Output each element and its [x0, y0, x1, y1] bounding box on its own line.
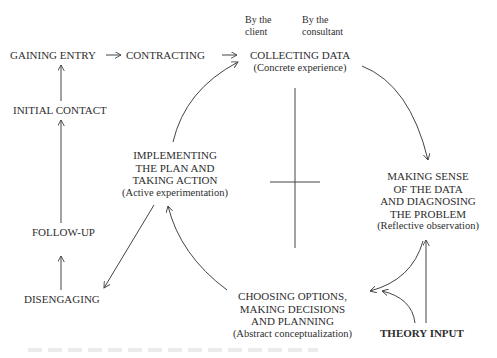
node-subtitle: (Reflective observation)	[370, 220, 486, 233]
stage-initial-contact: INITIAL CONTACT	[13, 104, 107, 117]
node-title-line: THE PROBLEM	[370, 208, 486, 221]
node-collecting-data: COLLECTING DATA (Concrete experience)	[240, 49, 360, 74]
stage-gaining-entry: GAINING ENTRY	[10, 49, 96, 62]
legend-by-consultant: By the consultant	[302, 14, 343, 38]
node-title-line: OF THE DATA	[370, 183, 486, 196]
node-title-line: IMPLEMENTING	[115, 149, 235, 162]
theory-input: THEORY INPUT	[380, 327, 464, 340]
legend-consultant-line1: By the	[302, 14, 343, 26]
node-title-line: MAKING DECISIONS	[225, 303, 360, 316]
node-making-sense: MAKING SENSE OF THE DATA AND DIAGNOSING …	[370, 170, 486, 233]
arrow-theory-to-choosing	[382, 291, 415, 323]
legend-consultant-line2: consultant	[302, 26, 343, 38]
node-subtitle: (Active experimentation)	[115, 187, 235, 200]
legend-by-client: By the client	[245, 14, 271, 38]
node-title-line: CHOOSING OPTIONS,	[225, 290, 360, 303]
node-title-line: MAKING SENSE	[370, 170, 486, 183]
arrow-implementing-to-collecting	[173, 62, 238, 142]
stage-disengaging: DISENGAGING	[24, 293, 100, 306]
node-implementing: IMPLEMENTING THE PLAN AND TAKING ACTION …	[115, 149, 235, 199]
arrow-choosing-to-implementing	[168, 206, 227, 290]
node-title-line: AND PLANNING	[225, 315, 360, 328]
stage-follow-up: FOLLOW-UP	[32, 226, 95, 239]
legend-client-line2: client	[245, 26, 271, 38]
arrow-makingsense-to-choosing	[370, 241, 423, 291]
arrow-collecting-to-makingsense	[362, 66, 428, 160]
node-subtitle: (Abstract conceptualization)	[225, 328, 360, 341]
node-title-line: THE PLAN AND	[115, 162, 235, 175]
node-subtitle: (Concrete experience)	[240, 62, 360, 75]
stage-contracting: CONTRACTING	[126, 49, 205, 62]
node-title-line: TAKING ACTION	[115, 174, 235, 187]
figure-caption-cutoff	[28, 348, 318, 352]
arrow-implementing-to-disengaging	[104, 205, 154, 288]
legend-client-line1: By the	[245, 14, 271, 26]
node-title-line: AND DIAGNOSING	[370, 195, 486, 208]
node-title: COLLECTING DATA	[240, 49, 360, 62]
node-choosing-options: CHOOSING OPTIONS, MAKING DECISIONS AND P…	[225, 290, 360, 340]
